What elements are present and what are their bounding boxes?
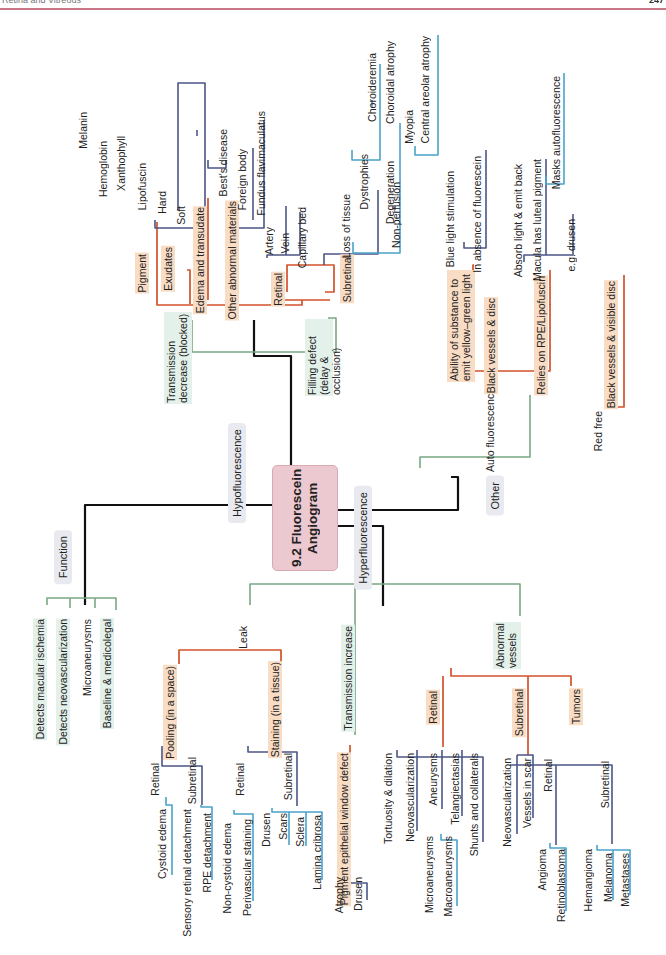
leaf-soft: Soft bbox=[174, 205, 188, 226]
leaf-tortuosity-dilation: Tortuosity & dilation bbox=[381, 752, 395, 845]
leaf-metastases: Metastases bbox=[618, 852, 632, 908]
center-node: 9.2 Fluorescein Angiogram bbox=[272, 465, 338, 571]
node-other-abnormal-materials: Other abnormal materials bbox=[225, 200, 239, 320]
leaf-angioma: Angioma bbox=[535, 848, 549, 891]
leaf-detects-macular-ischemia: Detects macular ischemia bbox=[33, 618, 47, 740]
leaf-foreign-body: Foreign body bbox=[235, 148, 249, 211]
branch-hypofluorescence: Hypofluorescence bbox=[228, 423, 246, 523]
branch-function: Function bbox=[54, 530, 72, 584]
leaf-microaneurysms-function: Microaneurysms bbox=[80, 618, 94, 697]
leaf-detects-neovascularization: Detects neovascularization bbox=[56, 618, 70, 745]
node-pooling-subretinal: Subretinal bbox=[185, 756, 199, 805]
node-pooling-retinal: Retinal bbox=[148, 762, 162, 797]
leaf-rpe-detachment: RPE detachment bbox=[200, 812, 214, 893]
node-ability-to-emit: Ability of substance to emit yellow–gree… bbox=[447, 270, 475, 382]
branch-hyperfluorescence: Hyperfluorescence bbox=[354, 486, 372, 590]
node-tumor-retinal: Retinal bbox=[541, 758, 555, 793]
center-title: 9.2 Fluorescein Angiogram bbox=[289, 466, 321, 570]
leaf-choroidal-atrophy: Choroidal atrophy bbox=[383, 40, 397, 125]
leaf-scars: Scars bbox=[276, 812, 290, 841]
node-edema-transudate: Edema and transudate bbox=[193, 206, 207, 314]
leaf-in-absence-of-fluorescein: In absence of fluorescein bbox=[470, 155, 484, 274]
node-black-vessels-visible-disc: Black vessels & visible disc bbox=[604, 280, 618, 409]
node-transmission-decrease: Transmission decrease (blocked) bbox=[164, 312, 192, 404]
leaf-macroaneurysms: Macroaneurysms bbox=[441, 835, 455, 918]
leaf-sensory-retinal-detachment: Sensory retinal detachment bbox=[180, 808, 194, 938]
leaf-shunts-collaterals: Shunts and collaterals bbox=[467, 752, 481, 857]
leaf-retinoblastoma: Retinoblastoma bbox=[554, 848, 568, 923]
leaf-melanoma: Melanoma bbox=[601, 852, 615, 903]
leaf-fundus-flavimaculatus: Fundus flavimaculatus bbox=[254, 110, 268, 216]
leaf-absorb-light: Absorb light & emit back bbox=[511, 163, 525, 278]
node-red-free: Red free bbox=[591, 410, 605, 452]
node-aneurysms: Aneurysms bbox=[426, 752, 440, 807]
leaf-hard: Hard bbox=[155, 190, 169, 215]
leaf-blue-light-stimulation: Blue light stimulation bbox=[443, 170, 457, 268]
node-loss-of-tissue: Loss of tissue bbox=[339, 193, 353, 259]
leaf-myopia: Myopia bbox=[402, 109, 416, 145]
leaf-cystoid-edema: Cystoid edema bbox=[155, 808, 169, 880]
leaf-masks-autofluorescence: Masks autofluorescence bbox=[549, 75, 563, 190]
leaf-microaneurysms: Microaneurysms bbox=[422, 835, 436, 914]
node-relies-on-rpe: Relies on RPE/Lipofuscin bbox=[534, 275, 548, 395]
leaf-eg-drusen: e.g. drusen bbox=[564, 218, 578, 273]
node-av-retinal: Retinal bbox=[426, 690, 440, 725]
node-staining: Staining (in a tissue) bbox=[268, 661, 282, 758]
node-auto-fluorescence: Auto fluorescence bbox=[483, 387, 497, 473]
leaf-atrophy: Atrophy bbox=[332, 876, 346, 914]
node-tumors: Tumors bbox=[569, 688, 583, 725]
leaf-vein: Vein bbox=[278, 232, 292, 254]
leaf-drusen-window: Drusen bbox=[351, 876, 365, 912]
node-leak: Leak bbox=[236, 625, 250, 650]
node-subretinal-filling: Subretinal bbox=[340, 254, 354, 303]
node-staining-retinal: Retinal bbox=[233, 762, 247, 797]
branch-other: Other bbox=[486, 476, 504, 516]
leaf-artery: Artery bbox=[262, 226, 276, 256]
node-retinal-filling: Retinal bbox=[271, 272, 285, 307]
leaf-baseline-medicolegal: Baseline & medicolegal bbox=[100, 618, 114, 729]
leaf-vessels-in-scar: Vessels in scar bbox=[520, 757, 534, 829]
node-degeneration: Degeneration bbox=[383, 160, 397, 225]
leaf-neovascularization-retinal: Neovascularization bbox=[403, 752, 417, 843]
node-abnormal-vessels: Abnormal vessels bbox=[493, 622, 521, 669]
node-transmission-increase: Transmission increase bbox=[341, 625, 355, 732]
leaf-capillary-bed: Capillary bed bbox=[295, 206, 309, 269]
node-black-vessels-disc: Black vessels & disc bbox=[484, 297, 498, 394]
leaf-choroideremia: Choroideremia bbox=[365, 52, 379, 123]
leaf-hemoglobin: Hemoglobin bbox=[96, 140, 110, 198]
node-av-subretinal: Subretinal bbox=[512, 688, 526, 737]
leaf-melanin: Melanin bbox=[76, 111, 90, 150]
leaf-lamina-cribrosa: Lamina cribrosa bbox=[310, 814, 324, 891]
node-pigment: Pigment bbox=[135, 253, 149, 294]
leaf-lipofuscin: Lipofuscin bbox=[135, 162, 149, 211]
leaf-macula-luteal-pigment: Macula has luteal pigment bbox=[530, 158, 544, 282]
node-filling-defect: Filling defect (delay & occlusion) bbox=[305, 319, 333, 396]
leaf-drusen-staining: Drusen bbox=[259, 812, 273, 848]
node-pooling: Pooling (in a space) bbox=[163, 665, 177, 760]
leaf-bests-disease: Best's disease bbox=[216, 128, 230, 197]
leaf-telangiectasias: Telangiectasias bbox=[448, 752, 462, 826]
node-dystrophies: Dystrophies bbox=[357, 153, 371, 210]
node-exudates: Exudates bbox=[161, 246, 175, 292]
node-staining-subretinal: Subretinal bbox=[281, 752, 295, 801]
leaf-non-cystoid-edema: Non-cystoid edema bbox=[220, 822, 234, 914]
leaf-neovascularization-subretinal: Neovascularization bbox=[500, 757, 514, 848]
leaf-xanthophyll: Xanthophyll bbox=[114, 135, 128, 192]
leaf-perivascular-staining: Perivascular staining bbox=[240, 818, 254, 917]
leaf-sclera: Sclera bbox=[293, 816, 307, 848]
node-tumor-subretinal: Subretinal bbox=[598, 760, 612, 809]
leaf-central-areolar-atrophy: Central areolar atrophy bbox=[418, 35, 432, 144]
leaf-hemangioma: Hemangioma bbox=[581, 848, 595, 912]
